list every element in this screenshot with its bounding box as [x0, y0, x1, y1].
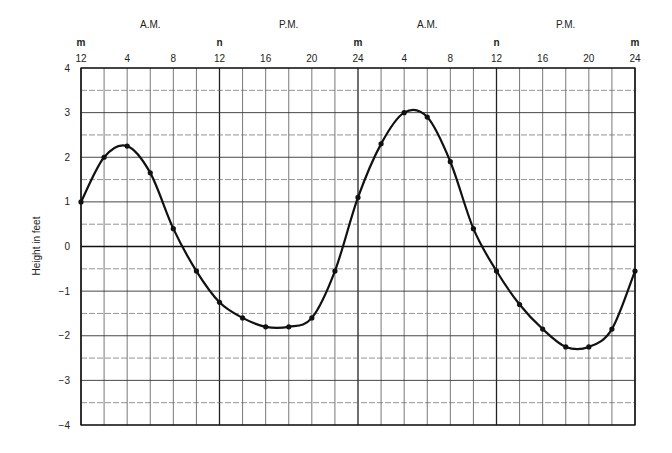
y-axis-label: Height in feet	[31, 216, 42, 275]
data-point	[171, 226, 176, 231]
y-tick-label: −4	[59, 420, 71, 431]
x-tick-label: 12	[491, 53, 503, 64]
y-tick-label: 4	[64, 63, 70, 74]
data-point	[263, 324, 268, 329]
period-label: P.M.	[279, 19, 298, 30]
data-point	[309, 315, 314, 320]
y-tick-label: 3	[64, 107, 70, 118]
data-point	[332, 268, 337, 273]
data-point	[194, 268, 199, 273]
x-tick-label: 20	[306, 53, 318, 64]
y-tick-label: −2	[59, 330, 71, 341]
data-point	[148, 170, 153, 175]
data-point	[425, 114, 430, 119]
data-point	[471, 226, 476, 231]
data-point	[563, 344, 568, 349]
data-point	[78, 199, 83, 204]
x-tick-label: 24	[352, 53, 364, 64]
midnight-noon-marker: m	[77, 37, 86, 48]
data-point	[378, 141, 383, 146]
period-label: A.M.	[417, 19, 438, 30]
y-tick-label: −3	[59, 375, 71, 386]
data-point	[355, 195, 360, 200]
period-label: P.M.	[556, 19, 575, 30]
data-point	[125, 143, 130, 148]
x-tick-label: 8	[448, 53, 454, 64]
data-point	[632, 268, 637, 273]
data-point	[448, 159, 453, 164]
midnight-noon-marker: n	[216, 37, 222, 48]
x-tick-label: 8	[171, 53, 177, 64]
data-point	[101, 155, 106, 160]
x-tick-label: 24	[629, 53, 641, 64]
data-point	[517, 302, 522, 307]
period-label: A.M.	[140, 19, 161, 30]
x-tick-label: 16	[537, 53, 549, 64]
data-point	[217, 300, 222, 305]
data-point	[609, 326, 614, 331]
x-tick-label: 12	[75, 53, 87, 64]
data-point	[402, 110, 407, 115]
data-point	[494, 268, 499, 273]
midnight-noon-marker: m	[631, 37, 640, 48]
y-tick-label: 0	[64, 241, 70, 252]
data-point	[586, 344, 591, 349]
y-tick-label: −1	[59, 286, 71, 297]
data-point	[540, 326, 545, 331]
tide-chart: 43210−1−2−3−41248121620244812162024mnmnm…	[0, 0, 672, 453]
midnight-noon-marker: n	[493, 37, 499, 48]
x-tick-label: 16	[260, 53, 272, 64]
x-tick-label: 20	[583, 53, 595, 64]
y-tick-label: 1	[64, 196, 70, 207]
data-point	[286, 324, 291, 329]
grid	[81, 68, 635, 425]
x-tick-label: 4	[401, 53, 407, 64]
data-point	[240, 315, 245, 320]
x-tick-label: 12	[214, 53, 226, 64]
x-tick-label: 4	[124, 53, 130, 64]
midnight-noon-marker: m	[354, 37, 363, 48]
y-tick-label: 2	[64, 152, 70, 163]
